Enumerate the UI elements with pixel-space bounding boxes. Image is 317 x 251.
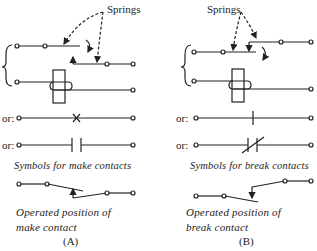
brace-icon <box>181 45 191 86</box>
caption-operated-make-line1: Operated position of <box>16 207 111 218</box>
or-label-a-2: or: <box>2 140 14 151</box>
break-contact-relay <box>181 12 313 102</box>
caption-symbols-make: Symbols for make contacts <box>14 161 131 172</box>
break-contact-symbol-bar <box>194 111 313 125</box>
caption-operated-break-line1: Operated position of <box>186 207 281 218</box>
caption-operated-break-line2: break contact <box>186 222 248 233</box>
or-label-b-2: or: <box>176 140 188 151</box>
caption-symbols-break: Symbols for break contacts <box>190 161 309 172</box>
figure-label-b: (B) <box>239 236 254 247</box>
or-label-a-1: or: <box>2 113 14 124</box>
make-contact-operated <box>17 182 135 198</box>
or-label-b-1: or: <box>176 113 188 124</box>
break-contact-operated <box>194 179 313 202</box>
figure-label-a: (A) <box>63 236 78 247</box>
caption-operated-make-line2: make contact <box>16 222 77 233</box>
make-contact-relay <box>2 12 135 103</box>
springs-label-b: Springs <box>207 4 241 15</box>
make-contact-symbol-x <box>17 114 135 122</box>
springs-label-a: Springs <box>107 4 141 15</box>
brace-icon <box>2 45 12 86</box>
make-contact-symbol-capacitor <box>17 138 135 152</box>
break-contact-symbol-slash <box>194 137 313 153</box>
